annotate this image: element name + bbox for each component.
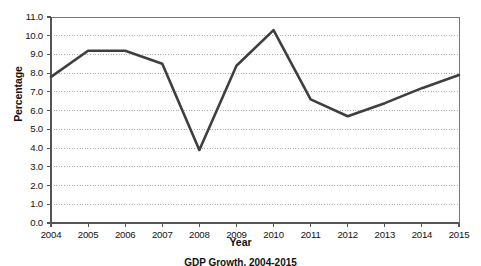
chart-plot-area: Percentage Year 11.010.09.08.07.06.05.04…: [0, 0, 481, 250]
figure: Percentage Year 11.010.09.08.07.06.05.04…: [0, 0, 481, 266]
y-tick-label: 9.0: [9, 48, 43, 59]
y-tick-label: 0.0: [9, 217, 43, 228]
data-series-line: [51, 30, 459, 150]
y-tick-label: 6.0: [9, 105, 43, 116]
y-tick-label: 11.0: [9, 11, 43, 22]
y-tick-label: 5.0: [9, 123, 43, 134]
y-tick-label: 3.0: [9, 161, 43, 172]
x-tick-label: 2015: [437, 229, 481, 240]
y-tick-label: 4.0: [9, 142, 43, 153]
y-tick-label: 7.0: [9, 86, 43, 97]
y-tick-label: 2.0: [9, 180, 43, 191]
figure-caption: GDP Growth, 2004-2015: [0, 256, 481, 266]
y-tick-label: 10.0: [9, 30, 43, 41]
line-chart-svg: [0, 0, 481, 250]
y-tick-label: 1.0: [9, 198, 43, 209]
y-tick-label: 8.0: [9, 67, 43, 78]
